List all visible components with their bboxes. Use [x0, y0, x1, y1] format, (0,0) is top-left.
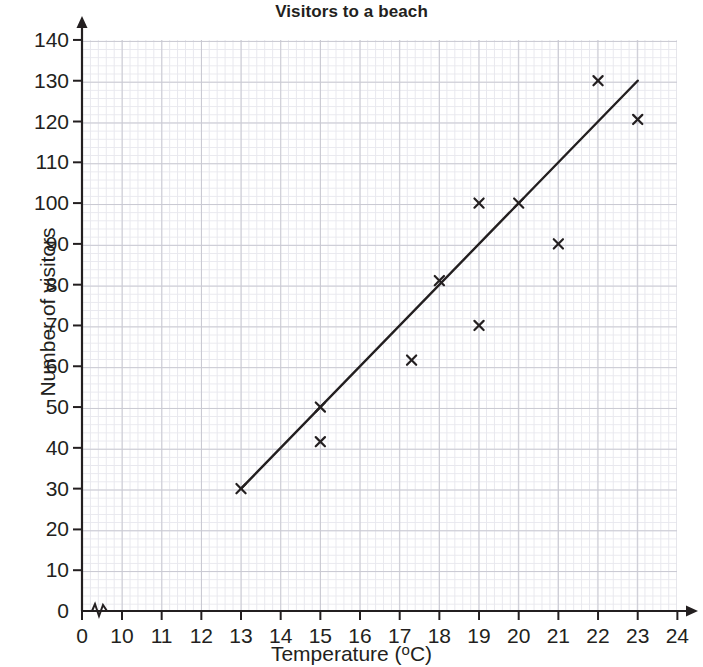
- y-axis-tick-label: 30: [7, 478, 69, 499]
- x-axis-title-text: Temperature (: [271, 642, 402, 665]
- y-axis-tick-label: 20: [7, 518, 69, 539]
- degree-symbol: o: [402, 641, 410, 658]
- y-axis-tick-label: 120: [7, 111, 69, 132]
- y-axis-tick-label: 110: [7, 151, 69, 172]
- y-axis-title: Number of visitors: [36, 172, 60, 452]
- y-axis-tick-label: 10: [7, 559, 69, 580]
- x-axis-arrow-icon: [686, 606, 698, 617]
- chart-title: Visitors to a beach: [0, 2, 703, 22]
- x-axis-title: Temperature (oC): [0, 641, 703, 666]
- x-axis-title-unit: C): [410, 642, 432, 665]
- y-axis-tick-label: 130: [7, 70, 69, 91]
- y-axis-tick-label: 140: [7, 29, 69, 50]
- chart-figure: Visitors to a beach 01020304050607080901…: [0, 0, 703, 667]
- y-axis-tick-label: 0: [7, 600, 69, 621]
- plot-area: [82, 40, 677, 611]
